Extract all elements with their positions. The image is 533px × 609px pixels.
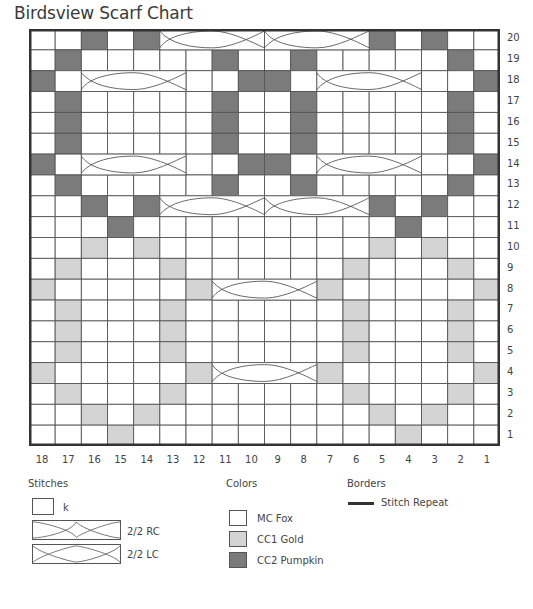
column-number: 6 bbox=[343, 454, 369, 465]
chart-cell bbox=[317, 112, 343, 133]
chart-cell bbox=[317, 133, 343, 154]
chart-cell bbox=[29, 279, 55, 300]
chart-cell bbox=[108, 238, 134, 259]
chart-cell bbox=[29, 425, 55, 446]
chart-cell bbox=[186, 425, 212, 446]
row-number: 9 bbox=[507, 262, 527, 273]
chart-cell bbox=[422, 279, 448, 300]
chart-cell bbox=[134, 50, 160, 71]
legend-knit-label: k bbox=[63, 502, 69, 513]
chart-cell bbox=[186, 321, 212, 342]
chart-cell bbox=[474, 321, 500, 342]
cable-rc-icon bbox=[317, 154, 422, 175]
chart-cell bbox=[134, 217, 160, 238]
chart-cell bbox=[55, 196, 81, 217]
chart-cell bbox=[369, 258, 395, 279]
chart-cell bbox=[29, 50, 55, 71]
chart-cell bbox=[422, 217, 448, 238]
chart-cell bbox=[265, 238, 291, 259]
row-number: 13 bbox=[507, 178, 527, 189]
chart-cell bbox=[55, 238, 81, 259]
chart-cell bbox=[108, 50, 134, 71]
chart-cell bbox=[317, 258, 343, 279]
row-number: 18 bbox=[507, 74, 527, 85]
chart-cell bbox=[291, 217, 317, 238]
row-number: 12 bbox=[507, 199, 527, 210]
chart-cell bbox=[81, 342, 107, 363]
chart-cell bbox=[134, 238, 160, 259]
chart-cell bbox=[212, 154, 238, 175]
chart-cell bbox=[134, 196, 160, 217]
chart-cell bbox=[369, 133, 395, 154]
chart-cell bbox=[186, 279, 212, 300]
chart-cell bbox=[212, 217, 238, 238]
cable-rc-icon bbox=[265, 196, 370, 217]
cable-lc-icon bbox=[160, 196, 265, 217]
chart-cell bbox=[474, 92, 500, 113]
chart-cell bbox=[29, 404, 55, 425]
chart-cell bbox=[29, 258, 55, 279]
legend-rc-label: 2/2 RC bbox=[127, 526, 160, 537]
chart-cell bbox=[474, 50, 500, 71]
chart-cell bbox=[474, 71, 500, 92]
chart-cell bbox=[186, 404, 212, 425]
chart-cell bbox=[422, 300, 448, 321]
chart-cell bbox=[81, 50, 107, 71]
chart-cell bbox=[265, 217, 291, 238]
chart-cell bbox=[160, 258, 186, 279]
chart-cell bbox=[474, 342, 500, 363]
chart-cell bbox=[134, 175, 160, 196]
chart-cell bbox=[369, 112, 395, 133]
chart-cell bbox=[186, 50, 212, 71]
chart-cell bbox=[29, 112, 55, 133]
chart-cell bbox=[160, 133, 186, 154]
chart-cell bbox=[81, 133, 107, 154]
chart-cell bbox=[474, 238, 500, 259]
chart-cell bbox=[291, 50, 317, 71]
chart-cell bbox=[343, 133, 369, 154]
chart-cell bbox=[291, 112, 317, 133]
chart-cell bbox=[134, 404, 160, 425]
chart-cell bbox=[291, 92, 317, 113]
chart-cell bbox=[160, 175, 186, 196]
chart-cell bbox=[108, 258, 134, 279]
chart-cell bbox=[395, 363, 421, 384]
chart-cell bbox=[448, 217, 474, 238]
chart-cell bbox=[238, 258, 264, 279]
cable-lc-icon bbox=[265, 29, 370, 50]
chart-cell bbox=[448, 238, 474, 259]
chart-cell bbox=[81, 321, 107, 342]
row-number: 7 bbox=[507, 303, 527, 314]
chart-cell bbox=[238, 321, 264, 342]
chart-cell bbox=[55, 133, 81, 154]
chart-cell bbox=[448, 112, 474, 133]
chart-cell bbox=[317, 342, 343, 363]
chart-cell bbox=[317, 279, 343, 300]
chart-cell bbox=[265, 175, 291, 196]
column-number: 1 bbox=[474, 454, 500, 465]
chart-cell bbox=[186, 92, 212, 113]
chart-cell bbox=[81, 29, 107, 50]
chart-cell bbox=[186, 112, 212, 133]
chart-cell bbox=[448, 175, 474, 196]
chart-cell bbox=[81, 425, 107, 446]
chart-cell bbox=[29, 175, 55, 196]
chart-cell bbox=[55, 92, 81, 113]
swatch-cc1-gold bbox=[229, 531, 247, 547]
cable-rc-icon bbox=[212, 279, 317, 300]
cable-rc-icon bbox=[32, 520, 121, 540]
chart-cell bbox=[395, 238, 421, 259]
chart-cell bbox=[343, 279, 369, 300]
chart-cell bbox=[291, 154, 317, 175]
chart-cell bbox=[134, 383, 160, 404]
chart-cell bbox=[448, 50, 474, 71]
column-number: 2 bbox=[448, 454, 474, 465]
row-number: 15 bbox=[507, 137, 527, 148]
chart-cell bbox=[291, 321, 317, 342]
chart-cell bbox=[448, 71, 474, 92]
column-number: 10 bbox=[238, 454, 264, 465]
column-number: 18 bbox=[29, 454, 55, 465]
chart-cell bbox=[238, 71, 264, 92]
chart-cell bbox=[212, 92, 238, 113]
chart-cell bbox=[317, 363, 343, 384]
